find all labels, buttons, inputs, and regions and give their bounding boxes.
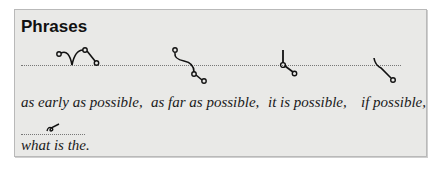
writing-line-row2 bbox=[21, 134, 85, 135]
phrase-what-is-the: what is the. bbox=[21, 137, 90, 154]
shorthand-as-far-as-possible-icon bbox=[172, 45, 212, 85]
phrase-it-is-possible: it is possible, bbox=[268, 94, 347, 111]
phrase-as-early-as-possible: as early as possible, bbox=[21, 94, 143, 111]
shorthand-it-is-possible-icon bbox=[279, 48, 309, 84]
shorthand-as-early-as-possible-icon bbox=[55, 46, 105, 72]
phrases-panel: Phrases as early as possible, as far as … bbox=[14, 9, 427, 157]
phrase-if-possible: if possible, bbox=[361, 94, 426, 111]
shorthand-if-possible-icon bbox=[371, 57, 405, 91]
phrase-as-far-as-possible: as far as possible, bbox=[151, 94, 259, 111]
panel-title: Phrases bbox=[21, 17, 87, 37]
shorthand-what-is-the-icon bbox=[45, 122, 61, 134]
